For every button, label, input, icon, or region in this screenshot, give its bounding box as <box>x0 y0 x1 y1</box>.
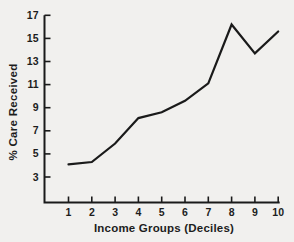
y-tick-label: 11 <box>27 78 38 90</box>
axes-spine <box>45 15 280 202</box>
x-tick-label: 5 <box>159 206 165 218</box>
y-axis-title: % Care Received <box>7 63 19 160</box>
y-tick-label: 13 <box>27 55 39 67</box>
y-tick-label: 17 <box>27 9 39 21</box>
x-tick-label: 3 <box>112 206 118 218</box>
care-by-income-chart: 35791113151712345678910 % Care Received … <box>0 0 294 242</box>
x-tick-label: 6 <box>182 206 188 218</box>
plot-area: 35791113151712345678910 <box>0 0 294 242</box>
y-tick-label: 15 <box>27 32 39 44</box>
x-axis-title: Income Groups (Deciles) <box>94 222 234 234</box>
x-tick-label: 10 <box>272 206 284 218</box>
y-tick-label: 3 <box>33 171 39 183</box>
x-tick-label: 8 <box>229 206 235 218</box>
x-tick-label: 4 <box>135 206 141 218</box>
x-tick-label: 9 <box>252 206 258 218</box>
x-tick-label: 7 <box>205 206 211 218</box>
y-tick-label: 7 <box>33 124 39 136</box>
care-received-line <box>69 25 279 165</box>
y-tick-label: 5 <box>33 147 39 159</box>
y-tick-label: 9 <box>33 101 39 113</box>
x-tick-label: 1 <box>66 206 72 218</box>
x-tick-label: 2 <box>89 206 95 218</box>
